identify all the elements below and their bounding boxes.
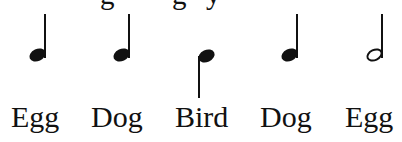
note-label: Dog xyxy=(260,100,312,134)
note-label: Dog xyxy=(91,100,143,134)
cropped-fragment: y xyxy=(206,0,221,11)
note-stem xyxy=(198,56,200,98)
note-label: Egg xyxy=(11,100,59,134)
note-label: Bird xyxy=(175,100,228,134)
cropped-fragment: g xyxy=(100,0,115,11)
cropped-text-line: g g y xyxy=(0,0,402,8)
note-label: Egg xyxy=(345,100,393,134)
cropped-fragment: g xyxy=(172,0,187,11)
